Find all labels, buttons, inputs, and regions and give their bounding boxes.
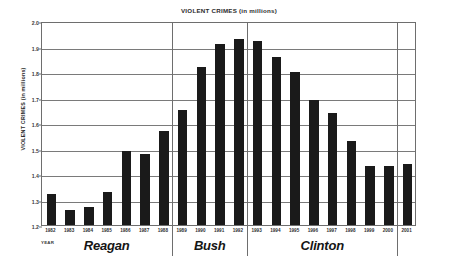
y-tick-label: 1.5	[32, 148, 39, 154]
year-label: 1997	[327, 228, 337, 233]
era-separator	[172, 22, 173, 256]
year-label: 1987	[139, 228, 149, 233]
bar	[65, 210, 74, 225]
era-separator	[247, 22, 248, 256]
bar	[178, 110, 187, 225]
x-axis-caption: YEAR	[41, 240, 54, 245]
year-label: 1991	[214, 228, 224, 233]
gridline	[42, 125, 415, 126]
year-label: 1999	[364, 228, 374, 233]
y-tick-label: 1.7	[32, 97, 39, 103]
year-label: 1985	[102, 228, 112, 233]
y-tick-label: 1.3	[32, 199, 39, 205]
era-label-clinton: Clinton	[301, 238, 344, 253]
bar	[403, 164, 412, 225]
y-tick-label: 1.2	[32, 224, 39, 230]
y-tick-mark	[39, 125, 42, 126]
y-tick-mark	[39, 48, 42, 49]
year-label: 1982	[45, 228, 55, 233]
y-tick-mark	[39, 23, 42, 24]
year-label: 1990	[195, 228, 205, 233]
y-axis-title: VIOLENT CRIMES (in millions)	[20, 49, 26, 169]
year-label: 2001	[402, 228, 412, 233]
y-tick-mark	[39, 201, 42, 202]
violent-crimes-bar-chart: VIOLENT CRIMES (in millions) VIOLENT CRI…	[0, 0, 449, 265]
gridline	[42, 202, 415, 203]
y-tick-mark	[39, 227, 42, 228]
bar	[384, 166, 393, 225]
bar	[140, 154, 149, 225]
year-label: 1995	[289, 228, 299, 233]
year-label: 1988	[158, 228, 168, 233]
y-tick-mark	[39, 176, 42, 177]
chart-title: VIOLENT CRIMES (in millions)	[44, 7, 414, 14]
bar	[253, 41, 262, 225]
bar	[122, 151, 131, 225]
y-tick-label: 1.9	[32, 46, 39, 52]
bar	[159, 131, 168, 225]
year-label: 1989	[177, 228, 187, 233]
y-tick-label: 1.4	[32, 173, 39, 179]
year-label: 1996	[308, 228, 318, 233]
gridline	[42, 151, 415, 152]
bar	[309, 100, 318, 225]
gridline	[42, 49, 415, 50]
year-label: 1983	[64, 228, 74, 233]
gridline	[42, 100, 415, 101]
bar	[84, 207, 93, 225]
y-tick-label: 1.8	[32, 71, 39, 77]
bar	[290, 72, 299, 225]
year-label: 1993	[252, 228, 262, 233]
bar	[365, 166, 374, 225]
y-tick-label: 2.0	[32, 20, 39, 26]
year-label: 2000	[383, 228, 393, 233]
year-label: 1998	[345, 228, 355, 233]
bar	[215, 44, 224, 225]
year-label: 1984	[83, 228, 93, 233]
era-label-reagan: Reagan	[84, 238, 130, 253]
bar	[347, 141, 356, 225]
bar	[234, 39, 243, 225]
year-label: 1986	[120, 228, 130, 233]
bar	[272, 57, 281, 225]
bar	[328, 113, 337, 225]
era-label-bush: Bush	[194, 238, 226, 253]
y-tick-mark	[39, 150, 42, 151]
gridline	[42, 74, 415, 75]
y-tick-mark	[39, 74, 42, 75]
bar	[197, 67, 206, 225]
gridline	[42, 176, 415, 177]
bar	[103, 192, 112, 225]
y-tick-mark	[39, 99, 42, 100]
year-label: 1992	[233, 228, 243, 233]
year-label: 1994	[270, 228, 280, 233]
plot-area: 2.01.91.81.71.61.51.41.31.2	[41, 22, 416, 226]
y-tick-label: 1.6	[32, 122, 39, 128]
era-separator	[397, 22, 398, 256]
bar	[47, 194, 56, 225]
